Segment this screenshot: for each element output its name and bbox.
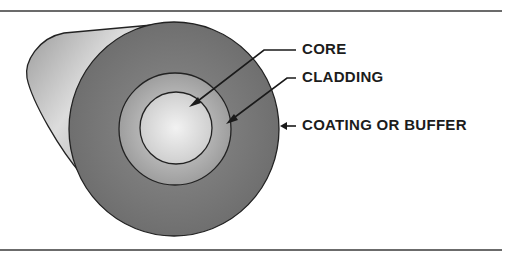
coating-label: COATING OR BUFFER [302, 116, 467, 133]
coating-arrow-icon [280, 122, 287, 130]
core-disk [140, 92, 212, 164]
cladding-label: CLADDING [302, 68, 384, 85]
bottom-rule [0, 249, 502, 251]
core-label: CORE [302, 40, 347, 57]
